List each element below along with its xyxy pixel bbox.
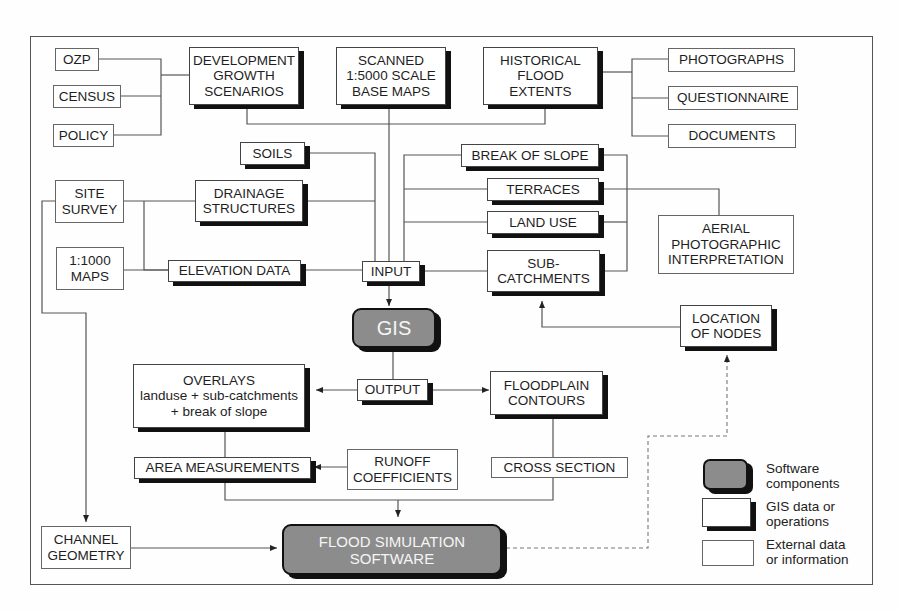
node-overlays: OVERLAYS landuse + sub-catchments + brea… (133, 364, 305, 428)
legend-gis-label: GIS data or operations (766, 499, 835, 529)
node-documents: DOCUMENTS (668, 124, 796, 148)
legend-software-swatch (703, 459, 748, 490)
node-development: DEVELOPMENT GROWTH SCENARIOS (189, 47, 299, 105)
node-break-of-slope: BREAK OF SLOPE (461, 144, 599, 167)
node-scanned: SCANNED 1:5000 SCALE BASE MAPS (336, 47, 446, 105)
node-cross-section: CROSS SECTION (491, 457, 628, 478)
legend-software-label: Software components (766, 461, 840, 491)
node-elevation: ELEVATION DATA (168, 260, 301, 282)
node-historical: HISTORICAL FLOOD EXTENTS (483, 47, 598, 105)
node-location-of-nodes: LOCATION OF NODES (680, 305, 772, 347)
node-policy: POLICY (53, 124, 114, 147)
node-sub-catchments: SUB- CATCHMENTS (487, 250, 600, 292)
node-area-measurements: AREA MEASUREMENTS (134, 457, 311, 479)
node-aerial: AERIAL PHOTOGRAPHIC INTERPRETATION (658, 215, 794, 274)
node-flood-simulation-software: FLOOD SIMULATION SOFTWARE (282, 524, 502, 575)
node-census: CENSUS (53, 85, 121, 108)
node-channel-geometry: CHANNEL GEOMETRY (41, 526, 131, 569)
node-questionnaire: QUESTIONNAIRE (668, 86, 798, 110)
node-output: OUTPUT (357, 379, 428, 401)
flood-gis-diagram: OZP CENSUS POLICY PHOTOGRAPHS QUESTIONNA… (0, 0, 898, 613)
legend-external-label: External data or information (766, 537, 849, 567)
node-gis-software: GIS (352, 308, 436, 348)
node-1000-maps: 1:1000 MAPS (56, 247, 124, 290)
legend-gis-swatch (702, 498, 751, 527)
node-input: INPUT (362, 261, 420, 282)
node-terraces: TERRACES (487, 178, 599, 201)
node-runoff: RUNOFF COEFFICIENTS (347, 449, 458, 490)
node-photographs: PHOTOGRAPHS (668, 48, 795, 72)
node-land-use: LAND USE (487, 211, 599, 234)
node-site-survey: SITE SURVEY (55, 180, 124, 223)
node-floodplain: FLOODPLAIN CONTOURS (490, 371, 603, 415)
node-soils: SOILS (240, 142, 305, 165)
node-drainage: DRAINAGE STRUCTURES (195, 180, 303, 222)
legend-external-swatch (702, 540, 754, 566)
node-ozp: OZP (55, 48, 99, 71)
